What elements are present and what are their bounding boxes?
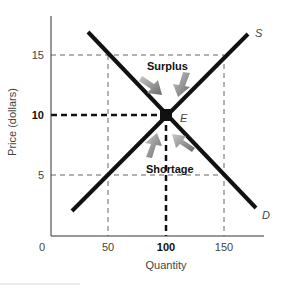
- demand-label: D: [262, 209, 270, 221]
- y-tick-15: 15: [32, 49, 44, 61]
- equilibrium-point: [160, 109, 172, 121]
- y-tick-5: 5: [38, 169, 44, 181]
- y-axis-label: Price (dollars): [6, 88, 18, 156]
- surplus-label: Surplus: [147, 60, 188, 72]
- equilibrium-label: E: [180, 112, 188, 124]
- surplus-arrow-left-icon: [139, 76, 162, 95]
- y-tick-10: 10: [32, 109, 44, 121]
- x-tick-0: 0: [39, 241, 45, 253]
- supply-label: S: [255, 27, 263, 39]
- x-tick-50: 50: [102, 241, 114, 253]
- x-tick-100: 100: [157, 241, 175, 253]
- x-axis-label: Quantity: [146, 259, 187, 271]
- supply-demand-chart: Surplus Shortage E S D 15 10 5 0 50 100 …: [0, 0, 294, 288]
- x-tick-150: 150: [215, 241, 233, 253]
- shortage-label: Shortage: [146, 163, 194, 175]
